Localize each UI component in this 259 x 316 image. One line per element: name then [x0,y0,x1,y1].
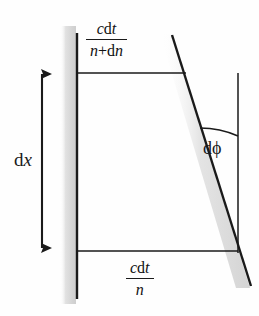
fraction-top-numerator: cdt [86,20,127,38]
fraction-top-num-t: t [112,20,116,37]
scan-smudge-artifacts [60,26,250,304]
fraction-top-den-dn: n [115,42,123,59]
label-dphi: dϕ [203,139,221,157]
label-dx-x: x [24,149,32,170]
fraction-bottom-num-t: t [145,259,149,276]
label-dphi-text: dϕ [203,138,221,158]
fraction-top-num-c: c [97,20,104,37]
fraction-bottom-numerator: cdt [126,259,154,277]
fraction-top: cdt n+dn [86,20,127,60]
fraction-bottom-den-n: n [136,281,144,298]
fraction-top-den-n: n [90,42,98,59]
fraction-top-den-plus: + [98,42,107,59]
angle-arc [200,128,238,136]
fraction-top-denominator: n+dn [86,41,127,59]
fraction-top-den-d: d [107,42,115,59]
label-dx: dx [14,150,32,169]
fraction-bottom-rule [126,278,154,279]
label-dx-d: d [14,149,24,170]
fraction-top-rule [86,39,127,40]
fraction-bottom: cdt n [126,259,154,299]
fraction-bottom-denominator: n [126,280,154,298]
fraction-top-num-d: d [104,20,112,37]
physics-figure: dx dϕ cdt n+dn cdt n [0,0,259,316]
fraction-bottom-num-d: d [137,259,145,276]
